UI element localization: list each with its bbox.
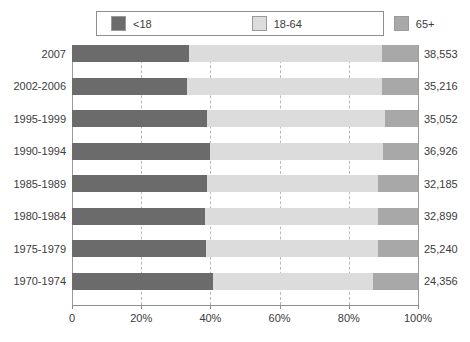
- legend-item-under18[interactable]: <18: [111, 12, 152, 35]
- y-axis-category-label: 1985-1989: [2, 178, 66, 190]
- x-axis-tick-label: 20%: [130, 312, 152, 324]
- y-axis-category-label: 1990-1994: [2, 145, 66, 157]
- bar-row[interactable]: [72, 175, 418, 192]
- x-axis-tick-label: 40%: [199, 312, 221, 324]
- bar-segment[interactable]: [378, 175, 418, 192]
- y-axis-category-label: 2007: [2, 48, 66, 60]
- bar-segment[interactable]: [72, 78, 187, 95]
- bar-row[interactable]: [72, 45, 418, 62]
- bar-row[interactable]: [72, 78, 418, 95]
- x-axis-tick-label: 100%: [404, 312, 432, 324]
- bar-segment[interactable]: [206, 240, 378, 257]
- plot-right-border: [418, 45, 419, 306]
- x-axis-tick-label: 80%: [338, 312, 360, 324]
- bar-segment[interactable]: [210, 143, 383, 160]
- bar-segment[interactable]: [378, 208, 418, 225]
- bar-segment[interactable]: [207, 110, 385, 127]
- x-axis-tick: [141, 305, 142, 309]
- legend-item-65plus[interactable]: 65+: [394, 12, 435, 35]
- y-axis-category-label: 2002-2006: [2, 80, 66, 92]
- bar-total-value-label: 32,185: [424, 178, 458, 190]
- bar-row[interactable]: [72, 110, 418, 127]
- bar-row[interactable]: [72, 273, 418, 290]
- y-axis-category-label: 1995-1999: [2, 113, 66, 125]
- bar-total-value-label: 38,553: [424, 48, 458, 60]
- bar-segment[interactable]: [207, 175, 378, 192]
- x-axis-tick: [280, 305, 281, 309]
- legend-item-18-64[interactable]: 18-64: [252, 12, 302, 35]
- bar-segment[interactable]: [378, 240, 418, 257]
- bar-row[interactable]: [72, 143, 418, 160]
- bar-segment[interactable]: [187, 78, 382, 95]
- bar-segment[interactable]: [72, 45, 189, 62]
- bar-segment[interactable]: [72, 175, 207, 192]
- legend-item-label: 65+: [416, 18, 435, 30]
- bar-segment[interactable]: [72, 208, 205, 225]
- x-axis-tick-label: 60%: [269, 312, 291, 324]
- y-axis-category-label: 1970-1974: [2, 275, 66, 287]
- bar-total-value-label: 24,356: [424, 275, 458, 287]
- bar-total-value-label: 25,240: [424, 243, 458, 255]
- bar-segment[interactable]: [373, 273, 418, 290]
- bar-segment[interactable]: [382, 45, 418, 62]
- bar-segment[interactable]: [213, 273, 373, 290]
- bar-total-value-label: 36,926: [424, 145, 458, 157]
- bar-segment[interactable]: [72, 273, 213, 290]
- bar-segment[interactable]: [72, 143, 210, 160]
- legend-item-label: <18: [133, 18, 152, 30]
- bar-row[interactable]: [72, 208, 418, 225]
- bar-total-value-labels: 38,55335,21635,05236,92632,18532,89925,2…: [424, 45, 470, 305]
- x-axis-tick-label: 0: [69, 312, 75, 324]
- y-axis-category-labels: 20072002-20061995-19991990-19941985-1989…: [0, 45, 66, 305]
- x-axis-line: [72, 305, 419, 306]
- bar-segment[interactable]: [385, 110, 418, 127]
- x-axis-tick: [349, 305, 350, 309]
- bar-segment[interactable]: [383, 143, 418, 160]
- legend-item-label: 18-64: [274, 18, 302, 30]
- bar-total-value-label: 32,899: [424, 210, 458, 222]
- plot-area: [72, 45, 418, 305]
- bar-total-value-label: 35,216: [424, 80, 458, 92]
- y-axis-category-label: 1980-1984: [2, 210, 66, 222]
- x-axis-tick: [418, 305, 419, 309]
- bar-segment[interactable]: [189, 45, 382, 62]
- bar-row[interactable]: [72, 240, 418, 257]
- x-axis-tick: [210, 305, 211, 309]
- bar-segment[interactable]: [72, 110, 207, 127]
- stacked-bar-chart: <18 18-64 65+ 20072002-20061995-19991990…: [0, 0, 470, 342]
- bar-segment[interactable]: [72, 240, 206, 257]
- legend-swatch-icon: [111, 16, 126, 31]
- chart-legend: <18 18-64 65+: [96, 11, 384, 36]
- bar-total-value-label: 35,052: [424, 113, 458, 125]
- bar-segment[interactable]: [382, 78, 418, 95]
- y-axis-category-label: 1975-1979: [2, 243, 66, 255]
- bar-segment[interactable]: [205, 208, 378, 225]
- legend-swatch-icon: [252, 16, 267, 31]
- x-axis-tick: [72, 305, 73, 309]
- legend-swatch-icon: [394, 16, 409, 31]
